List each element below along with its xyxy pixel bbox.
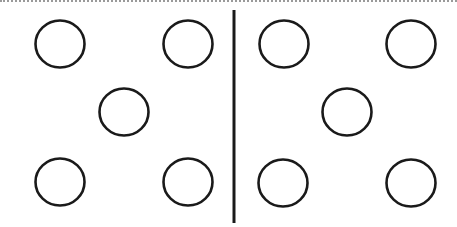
right-panel <box>259 21 436 207</box>
right-circle-top-left <box>260 21 309 68</box>
diagram-canvas <box>0 0 457 227</box>
right-circle-bottom-right <box>387 160 436 207</box>
left-circle-top-left <box>36 21 85 68</box>
left-circle-center <box>100 89 149 136</box>
right-circle-top-right <box>387 21 436 68</box>
left-panel <box>36 21 213 206</box>
right-circle-bottom-left <box>259 160 308 207</box>
left-circle-bottom-left <box>36 159 85 206</box>
right-circle-center <box>323 89 372 136</box>
left-circle-top-right <box>164 21 213 68</box>
left-circle-bottom-right <box>164 159 213 206</box>
